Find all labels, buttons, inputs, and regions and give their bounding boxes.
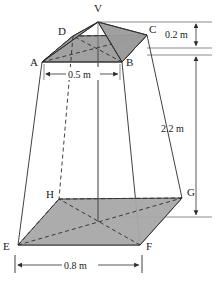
dim-label-0-5m: 0.5 m [68,69,91,80]
vertex-label-G: G [187,186,195,198]
base-square-efgh [18,198,182,245]
dimension-top-height: 0.2 m [165,24,196,46]
vertex-label-A: A [30,56,38,68]
dimension-base-width: 0.8 m [15,255,142,273]
dim-label-0-2m: 0.2 m [165,29,188,40]
vertex-label-F: F [146,240,152,252]
dim-label-0-8m: 0.8 m [64,260,87,271]
vertex-label-V: V [94,2,102,14]
geometry-figure: V A B C D E F G H 0.2 m 2.2 m 0.5 m [0,0,221,281]
vertex-label-H: H [46,188,54,200]
vertex-label-B: B [126,56,133,68]
vertex-label-D: D [58,25,66,37]
vertex-label-E: E [3,240,10,252]
frustum-pyramid-drawing: V A B C D E F G H 0.2 m 2.2 m 0.5 m [0,0,221,281]
dim-label-2-2m: 2.2 m [161,123,184,134]
vertex-label-C: C [149,23,156,35]
dimension-top-width: 0.5 m [44,64,120,80]
apex-edge-vd [73,22,98,36]
